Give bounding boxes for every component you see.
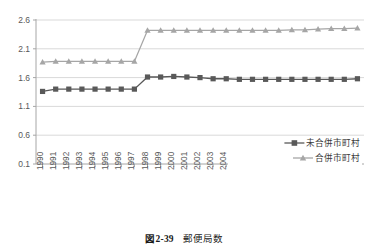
y-tick-label: 1.6 [18, 73, 30, 83]
legend-label: 未合併市町村 [306, 137, 360, 148]
x-tick-label: 1999 [154, 151, 163, 170]
figure-caption: 図2-39郵便局数 [0, 231, 369, 245]
series-marker [66, 87, 71, 92]
series-marker [132, 87, 137, 92]
series-marker [263, 77, 268, 82]
x-tick-label: 1994 [88, 151, 97, 170]
y-tick-label: 2.1 [18, 44, 30, 54]
caption-title: 郵便局数 [183, 234, 224, 244]
series-marker [315, 77, 320, 82]
series-marker [224, 76, 229, 81]
series-marker [237, 77, 242, 82]
series-marker [250, 77, 255, 82]
series-marker [211, 76, 216, 81]
chart-plot-area: 0.10.61.11.62.12.6 199019911992199319941… [0, 0, 369, 232]
series-marker [197, 75, 202, 80]
x-tick-label: 1997 [127, 151, 136, 170]
x-tick-label: 1995 [101, 151, 110, 170]
x-tick-label: 1996 [114, 151, 123, 170]
series-lines [43, 28, 358, 91]
y-tick-label: 0.6 [18, 130, 30, 140]
caption-figure-number: 2-39 [156, 234, 174, 244]
x-tick-label: 2001 [180, 151, 189, 170]
series-marker [79, 87, 84, 92]
series-marker [119, 87, 124, 92]
x-tick-label: 2003 [206, 151, 215, 170]
x-tick-label: 2000 [167, 151, 176, 170]
caption-figure-label: 図 [145, 234, 155, 244]
postal-office-line-chart: 0.10.61.11.62.12.6 199019911992199319941… [0, 0, 369, 232]
y-axis-tick-labels: 0.10.61.11.62.12.6 [18, 15, 36, 169]
x-tick-label: 1990 [36, 151, 45, 170]
x-tick-label: 2002 [193, 151, 202, 170]
series-marker [355, 76, 360, 81]
x-tick-label: 1991 [49, 151, 58, 170]
x-tick-label: 1992 [62, 151, 71, 170]
series-marker [53, 87, 58, 92]
x-tick-label: 1993 [75, 151, 84, 170]
series-marker [276, 77, 281, 82]
y-tick-label: 2.6 [18, 15, 30, 25]
legend-label: 合併市町村 [315, 152, 360, 163]
legend-swatch-marker [292, 140, 298, 146]
series-marker [342, 77, 347, 82]
series-markers [39, 25, 360, 94]
series-marker [289, 77, 294, 82]
series-marker [329, 77, 334, 82]
series-line [43, 28, 358, 62]
series-marker [184, 74, 189, 79]
series-marker [106, 87, 111, 92]
series-marker [302, 77, 307, 82]
chart-legend: 未合併市町村合併市町村 [228, 136, 362, 171]
series-marker [40, 89, 45, 94]
y-tick-label: 1.1 [18, 101, 30, 111]
series-marker [158, 74, 163, 79]
series-marker [171, 74, 176, 79]
figure-container: 0.10.61.11.62.12.6 199019911992199319941… [0, 0, 369, 251]
series-marker [145, 74, 150, 79]
series-marker [92, 87, 97, 92]
x-tick-label: 2004 [219, 151, 228, 170]
x-tick-label: 1998 [141, 151, 150, 170]
y-tick-label: 0.1 [18, 159, 30, 169]
